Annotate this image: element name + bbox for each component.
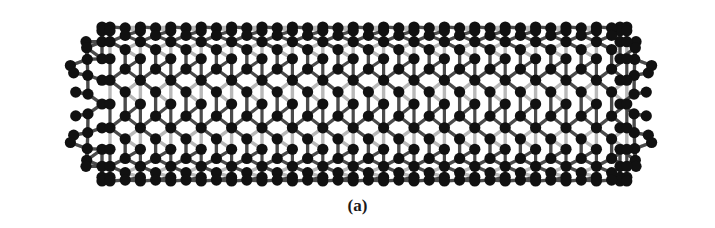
- nanotube-figure: [0, 0, 715, 195]
- nanotube-front-wall: [65, 21, 657, 186]
- figure-caption: (a): [0, 196, 715, 216]
